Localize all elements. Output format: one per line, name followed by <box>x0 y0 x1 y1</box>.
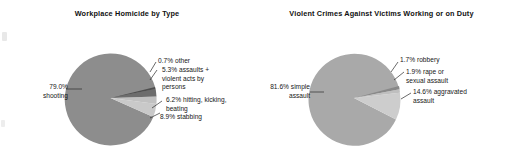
label-robbery: 1.7% robbery <box>400 56 504 65</box>
label-other: 0.7% other <box>158 57 253 66</box>
figure-canvas: Workplace Homicide by Type <box>0 0 509 164</box>
label-hitting-kicking-beating: 6.2% hitting, kicking, beating <box>166 96 256 113</box>
chart-panel-workplace-homicide: Workplace Homicide by Type <box>0 0 254 164</box>
pie-slices-workplace <box>65 54 157 146</box>
leader-line-rape-sexual-assault <box>394 72 404 80</box>
label-simple-assault: 81.6% simple assault <box>254 83 310 100</box>
label-aggravated-assault: 14.6% aggravated assault <box>413 88 509 105</box>
label-shooting: 79.0% shooting <box>10 83 68 100</box>
label-stabbing: 8.9% stabbing <box>160 113 252 122</box>
label-assaults-violent-acts: 5.3% assaults + violent acts by persons <box>162 66 254 92</box>
label-rape-sexual-assault: 1.9% rape or sexual assault <box>406 68 506 85</box>
leader-line-other <box>150 62 156 72</box>
pie-slices-violent-crimes <box>309 54 401 146</box>
leader-line-assaults <box>150 70 157 80</box>
chart-panel-violent-crimes: Violent Crimes Against Victims Working o… <box>254 0 509 164</box>
leader-line-robbery <box>391 62 398 72</box>
leader-line-aggravated-assault <box>401 93 411 99</box>
